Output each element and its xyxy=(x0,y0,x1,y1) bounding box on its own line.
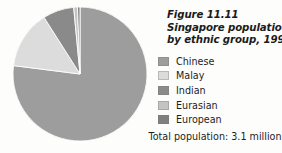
legend-item-label: European xyxy=(176,114,222,125)
legend-item: Eurasian xyxy=(157,98,282,113)
figure-info-panel: Figure 11.11 Singapore population by eth… xyxy=(152,0,282,153)
legend-swatch-icon xyxy=(158,57,169,66)
figure-panel: Figure 11.11 Singapore population by eth… xyxy=(0,0,282,153)
legend-item-label: Eurasian xyxy=(176,100,218,111)
legend-swatch-icon xyxy=(158,86,169,95)
legend-item: Chinese xyxy=(157,54,282,69)
legend-swatch-icon xyxy=(158,115,169,124)
legend-item-label: Chinese xyxy=(176,56,214,67)
caption-line-number: Figure 11.11 xyxy=(167,9,282,22)
pie-chart-svg xyxy=(0,0,155,153)
caption-line-title-2: by ethnic group, 1998 xyxy=(167,34,282,47)
pie-slice-group xyxy=(13,7,147,141)
legend-swatch-icon xyxy=(158,101,169,110)
figure-caption: Figure 11.11 Singapore population by eth… xyxy=(167,9,282,47)
legend-item: Malay xyxy=(157,69,282,84)
legend-item: European xyxy=(157,112,282,127)
legend-item-label: Indian xyxy=(176,85,206,96)
legend-item: Indian xyxy=(157,83,282,98)
caption-line-title-1: Singapore population xyxy=(167,22,282,35)
total-population-label: Total population: 3.1 million xyxy=(140,131,282,142)
pie-chart xyxy=(0,0,155,153)
legend-item-label: Malay xyxy=(176,70,204,81)
chart-legend: ChineseMalayIndianEurasianEuropean xyxy=(157,54,282,127)
legend-swatch-icon xyxy=(158,71,169,80)
